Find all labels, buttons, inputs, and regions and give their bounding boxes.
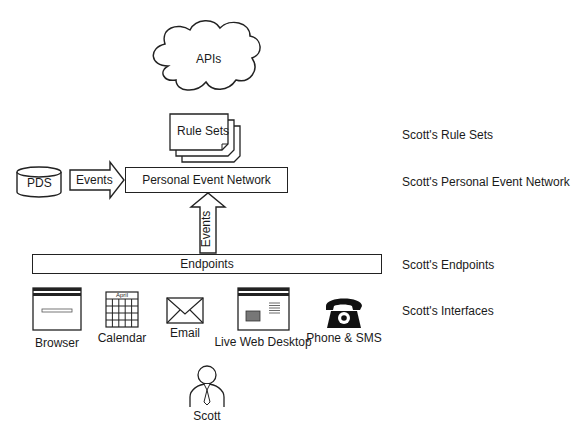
- pds-label: PDS: [27, 176, 52, 190]
- interface-label-browser: Browser: [27, 336, 87, 350]
- person-icon: [190, 366, 224, 407]
- diagram-canvas: [0, 0, 571, 431]
- user-label: Scott: [187, 409, 227, 423]
- cloud-label: APIs: [196, 52, 221, 66]
- events-horizontal-label: Events: [76, 173, 113, 187]
- browser-icon: [33, 288, 81, 330]
- annotation-interfaces: Scott's Interfaces: [402, 304, 494, 318]
- calendar-month-label: April: [106, 292, 138, 299]
- events-vertical-label: Events: [199, 211, 213, 248]
- personal-event-network-label: Personal Event Network: [142, 173, 271, 187]
- rule-sets-stack-icon: [170, 114, 240, 162]
- annotation-endpoints: Scott's Endpoints: [402, 258, 494, 272]
- endpoints-label: Endpoints: [180, 257, 233, 271]
- envelope-icon: [167, 298, 203, 323]
- endpoints-box: Endpoints: [32, 254, 382, 274]
- interface-label-phone-sms: Phone & SMS: [304, 331, 384, 345]
- annotation-personal-event-network: Scott's Personal Event Network: [402, 175, 570, 189]
- telephone-icon: [326, 299, 362, 329]
- personal-event-network-box: Personal Event Network: [125, 167, 288, 193]
- rule-sets-label: Rule Sets: [177, 124, 229, 138]
- annotation-rule-sets: Scott's Rule Sets: [402, 128, 493, 142]
- interface-label-calendar: Calendar: [92, 331, 152, 345]
- desktop-window-icon: [238, 288, 289, 330]
- interface-label-live-web-desktop: Live Web Desktop: [213, 335, 313, 349]
- interface-label-email: Email: [155, 326, 215, 340]
